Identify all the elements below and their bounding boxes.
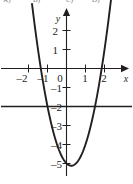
x-axis-name: x (123, 73, 129, 84)
y-tick-label--1: –1 (50, 82, 62, 94)
y-axis-name: y (55, 13, 61, 24)
x-tick-label-1: 1 (82, 72, 88, 84)
y-tick-label-2: 2 (53, 25, 59, 37)
x-axis-arrow-icon (121, 65, 129, 72)
x-tick-label-2: 2 (101, 72, 107, 84)
x-tick-label--1: –1 (37, 72, 49, 84)
x-tick-label--2: –2 (16, 72, 28, 84)
coordinate-plane: –2 –1 1 2 0 2 1 –1 –2 –3 –4 –5 y x (0, 0, 133, 184)
y-tick-label--5: –5 (50, 158, 63, 170)
y-tick-label-1: 1 (53, 44, 59, 56)
parabola-figure: A) B) C) D) –2 –1 1 2 (0, 0, 133, 184)
y-tick-label--4: –4 (50, 139, 63, 151)
y-tick-label--3: –3 (50, 120, 63, 132)
y-axis-arrow-icon (63, 8, 70, 16)
y-tick-label--2: –2 (50, 101, 62, 113)
